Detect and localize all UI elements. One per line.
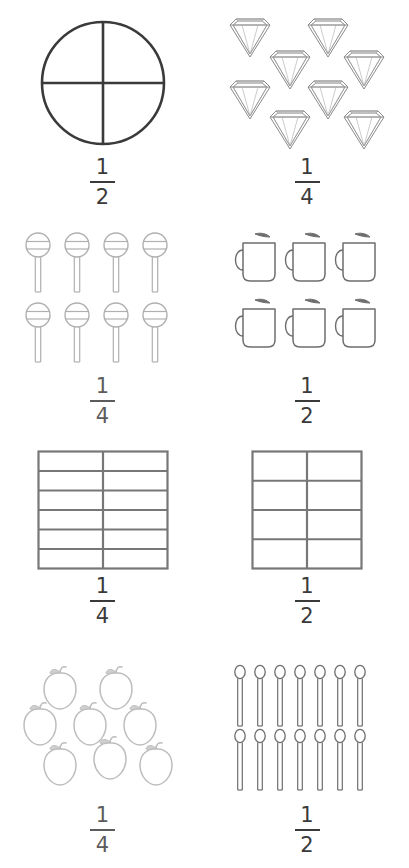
problem-cell-5: 1 4: [0, 430, 205, 640]
problem-cell-7: 1 4: [0, 640, 205, 868]
fraction-7: 1 4: [90, 806, 115, 856]
grid-icon: [251, 450, 363, 570]
fraction-numerator: 1: [96, 158, 109, 178]
fraction-bar: [90, 181, 115, 183]
mug-group-icon: [227, 230, 387, 370]
fraction-denominator: 2: [300, 834, 313, 856]
fraction-denominator: 2: [300, 405, 313, 427]
fraction-denominator: 4: [96, 605, 109, 627]
problem-cell-3: 1 4: [0, 210, 205, 430]
fraction-4: 1 2: [295, 377, 320, 427]
grid-icon: [37, 450, 169, 570]
worksheet-page: 1 2: [0, 0, 409, 868]
fraction-5: 1 4: [90, 577, 115, 627]
fraction-denominator: 4: [96, 405, 109, 427]
fraction-numerator: 1: [96, 806, 109, 826]
fraction-denominator: 2: [300, 605, 313, 627]
fraction-numerator: 1: [300, 806, 313, 826]
figure-apples: [0, 640, 205, 806]
figure-lollipops: [0, 210, 205, 377]
fraction-numerator: 1: [300, 377, 313, 397]
fraction-numerator: 1: [300, 577, 313, 597]
figure-grid-2x6: [0, 430, 205, 577]
problem-cell-8: 1 2: [205, 640, 409, 868]
fraction-bar: [295, 600, 320, 602]
fraction-numerator: 1: [96, 577, 109, 597]
apple-group-icon: [18, 663, 188, 798]
problem-cell-1: 1 2: [0, 0, 205, 210]
fraction-bar: [90, 400, 115, 402]
fraction-denominator: 4: [300, 186, 313, 208]
problem-cell-4: 1 2: [205, 210, 409, 430]
fraction-denominator: 2: [96, 186, 109, 208]
fraction-bar: [90, 829, 115, 831]
fraction-6: 1 2: [295, 577, 320, 627]
fraction-bar: [90, 600, 115, 602]
figure-mugs: [205, 210, 409, 377]
diamond-group-icon: [222, 8, 392, 156]
fraction-bar: [295, 400, 320, 402]
spoon-group-icon: [232, 663, 382, 798]
fraction-3: 1 4: [90, 377, 115, 427]
fraction-bar: [295, 829, 320, 831]
problem-cell-6: 1 2: [205, 430, 409, 640]
figure-grid-2x4: [205, 430, 409, 577]
figure-diamonds: [205, 0, 409, 158]
circle-quartered-icon: [39, 19, 167, 147]
fraction-2: 1 4: [295, 158, 320, 208]
figure-spoons: [205, 640, 409, 806]
fraction-numerator: 1: [300, 158, 313, 178]
fraction-8: 1 2: [295, 806, 320, 856]
lollipop-group-icon: [23, 230, 183, 370]
problem-cell-2: 1 4: [205, 0, 409, 210]
fraction-numerator: 1: [96, 377, 109, 397]
problem-grid: 1 2: [0, 0, 409, 868]
figure-circle-quartered: [0, 0, 205, 158]
fraction-1: 1 2: [90, 158, 115, 208]
fraction-denominator: 4: [96, 834, 109, 856]
fraction-bar: [295, 181, 320, 183]
